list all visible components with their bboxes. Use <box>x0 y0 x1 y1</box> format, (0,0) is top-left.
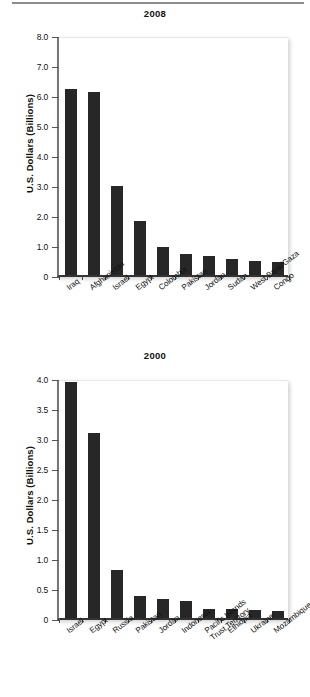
y-axis-tick: 6.0 <box>52 97 59 98</box>
y-axis-tick: 2.0 <box>52 217 59 218</box>
y-axis-tick-label: 2.0 <box>37 212 48 222</box>
y-axis-tick: 0.5 <box>52 590 59 591</box>
y-axis-tick-label: 3.5 <box>37 405 48 415</box>
y-axis-tick-label: 2.0 <box>37 495 48 505</box>
y-axis-title-2000: U.S. Dollars (Billions) <box>24 421 35 571</box>
chart-title-2008: 2008 <box>0 8 310 19</box>
y-axis-tick: 4.0 <box>52 157 59 158</box>
y-axis-tick-label: 3.0 <box>37 182 48 192</box>
y-axis-tick-label: 4.0 <box>37 152 48 162</box>
bar <box>65 89 77 275</box>
bar <box>180 601 192 618</box>
plot-area-2000: 4.03.53.02.52.01.51.00.50 <box>57 380 288 620</box>
y-axis-tick: 2.0 <box>52 500 59 501</box>
y-axis-tick: 4.0 <box>52 380 59 381</box>
bar <box>226 259 238 275</box>
bar <box>88 433 100 618</box>
y-axis-tick-label: 2.5 <box>37 465 48 475</box>
y-axis-tick: 1.0 <box>52 560 59 561</box>
y-axis-tick: 0 <box>52 620 59 621</box>
y-axis-tick: 3.0 <box>52 440 59 441</box>
plot-area-2008: 8.07.06.05.04.03.02.01.00 <box>57 37 288 277</box>
y-axis-tick-label: 5.0 <box>37 122 48 132</box>
y-axis-tick-label: 8.0 <box>37 32 48 42</box>
bar-series-2000 <box>59 380 288 618</box>
bar <box>134 221 146 275</box>
y-axis-tick-label: 7.0 <box>37 62 48 72</box>
y-axis-tick: 8.0 <box>52 37 59 38</box>
bar <box>111 570 123 618</box>
y-axis-tick: 7.0 <box>52 67 59 68</box>
chart-panel-2008: 2008 U.S. Dollars (Billions) 8.07.06.05.… <box>0 8 310 348</box>
y-axis-tick: 3.0 <box>52 187 59 188</box>
y-axis-tick-label: 3.0 <box>37 435 48 445</box>
top-horizontal-rule <box>12 2 304 4</box>
chart-title-2000: 2000 <box>0 350 310 361</box>
y-axis-tick-label: 4.0 <box>37 375 48 385</box>
x-axis-label: Iraq <box>65 277 81 292</box>
bar <box>88 92 100 275</box>
chart-panel-2000: 2000 U.S. Dollars (Billions) 4.03.53.02.… <box>0 350 310 697</box>
y-axis-tick: 3.5 <box>52 410 59 411</box>
y-axis-tick: 5.0 <box>52 127 59 128</box>
x-axis-labels-2000: IsraelEgyptRussiaPakistanJordanIndonesia… <box>57 622 288 694</box>
y-axis-title-2008: U.S. Dollars (Billions) <box>24 69 35 219</box>
bar-series-2008 <box>59 37 288 275</box>
x-axis-labels-2008: IraqAfghanistanIsraelEgyptColombiaPakist… <box>57 279 288 343</box>
bar <box>157 247 169 275</box>
y-axis-tick-label: 0 <box>43 272 48 282</box>
bar <box>65 382 77 618</box>
y-axis-tick-label: 1.0 <box>37 242 48 252</box>
y-axis-tick-label: 6.0 <box>37 92 48 102</box>
y-axis-tick: 2.5 <box>52 470 59 471</box>
y-axis-tick: 1.0 <box>52 247 59 248</box>
y-axis-tick-label: 1.0 <box>37 555 48 565</box>
y-axis-tick-label: 0.5 <box>37 585 48 595</box>
y-axis-tick: 1.5 <box>52 530 59 531</box>
y-axis-tick-label: 0 <box>43 615 48 625</box>
bar <box>134 596 146 618</box>
y-axis-tick: 0 <box>52 277 59 278</box>
bar <box>249 261 261 275</box>
y-axis-tick-label: 1.5 <box>37 525 48 535</box>
